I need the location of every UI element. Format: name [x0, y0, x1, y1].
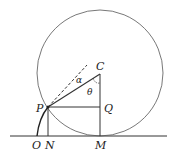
- theta-arc: [93, 78, 100, 83]
- label-alpha: α: [76, 75, 82, 85]
- label-O: O: [32, 139, 41, 152]
- point-P: [47, 106, 50, 109]
- label-N: N: [44, 139, 55, 152]
- label-M: M: [94, 139, 107, 152]
- label-theta: θ: [87, 87, 93, 97]
- label-Q: Q: [104, 102, 113, 115]
- label-P: P: [35, 102, 44, 115]
- label-C: C: [96, 60, 105, 73]
- diagram-canvas: C P Q O N M α θ: [0, 0, 173, 161]
